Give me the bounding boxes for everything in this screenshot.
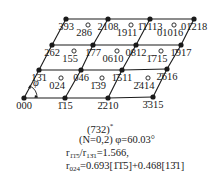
node-label-2210: 2̄210 <box>98 100 119 111</box>
extra-spot-label: 1911 <box>117 27 138 38</box>
node-label-1115: 1̄15 <box>57 100 72 111</box>
vector-line: r024=0.693[1̄1̄5]+0.468[13̄1] <box>66 161 184 173</box>
node-label-2108: 2108 <box>98 21 119 32</box>
node-label-11113: 1̄1113 <box>137 21 162 32</box>
params-line: (N=0,2) φ=60.03° <box>79 135 155 146</box>
ratio-line: r1̄1̄5/r13̄1=1.566, <box>66 148 129 160</box>
node-label-3315: 3̄315 <box>143 99 164 110</box>
phi-symbol: φ <box>33 77 39 88</box>
node-label-01218: 01̄218 <box>181 21 207 32</box>
extra-spot-label: 024 <box>49 80 66 91</box>
node-label-000: 000 <box>16 100 32 111</box>
lattice-line <box>122 69 167 70</box>
node-label-1917: 1̄917 <box>171 47 192 58</box>
node-label-1511: 1̄511 <box>112 72 133 83</box>
node-label-177: 1̄77 <box>85 47 101 58</box>
extra-spot-label: 2̄414 <box>134 80 156 91</box>
node-label-262: 262 <box>44 47 60 58</box>
node-label-046: 046 <box>73 72 89 83</box>
extra-spot-label: 155 <box>62 53 78 64</box>
node-label-2616: 2̄616 <box>157 71 178 82</box>
node-label-393: 393 <box>58 21 74 32</box>
extra-spot-label: 1̄39 <box>90 80 106 91</box>
extra-spot-label: 286 <box>76 27 92 38</box>
node-label-0812: 0812 <box>126 47 147 58</box>
extra-spot-label: 0610 <box>103 53 124 64</box>
lattice-line <box>108 97 153 98</box>
extra-spot-label: 1̄715 <box>147 53 168 64</box>
angle-marker: φ <box>28 77 39 98</box>
